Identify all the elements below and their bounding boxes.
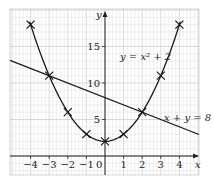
svg-text:15: 15: [87, 41, 100, 52]
y-axis-label: y: [95, 9, 102, 20]
x-axis-label: x: [195, 159, 201, 170]
svg-text:−2: −2: [60, 159, 75, 170]
svg-text:4: 4: [176, 159, 182, 170]
svg-text:3: 3: [158, 159, 164, 170]
curve-label: y = x² + 2: [119, 51, 171, 62]
line-label: x + y = 8: [164, 112, 211, 123]
svg-text:5: 5: [94, 114, 100, 125]
svg-text:−4: −4: [23, 159, 38, 170]
svg-text:−1: −1: [79, 159, 94, 170]
origin-label: 0: [96, 159, 102, 170]
svg-text:1: 1: [120, 159, 126, 170]
graph: −4−3−2−1123451015 y x 0 y = x² + 2 x + y…: [0, 0, 214, 179]
svg-text:−3: −3: [42, 159, 57, 170]
svg-text:2: 2: [139, 159, 145, 170]
svg-text:10: 10: [87, 78, 100, 89]
